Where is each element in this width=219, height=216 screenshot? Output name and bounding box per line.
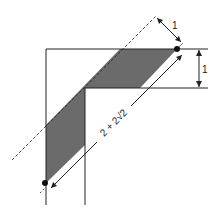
corridor-width-label: 1: [202, 64, 208, 75]
diagonal-length-label: 2 + 2√2: [98, 107, 130, 139]
perpendicular-width-label: 1: [172, 20, 178, 31]
dashed-guide-tail: [40, 187, 46, 193]
arrow-head-icon: [196, 81, 202, 87]
arrow-head-icon: [196, 50, 202, 56]
endpoint-bottom-left: [42, 180, 48, 186]
inner-wall: [85, 88, 208, 205]
corridor-diagram: 1 1 2 + 2√2: [0, 0, 219, 216]
endpoint-top-right: [174, 46, 180, 52]
